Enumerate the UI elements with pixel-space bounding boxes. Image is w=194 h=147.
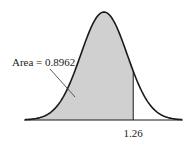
- area-label: Area = 0.8962: [12, 56, 75, 68]
- z-value-label: 1.26: [123, 127, 143, 139]
- normal-curve-chart: Area = 0.8962 1.26: [0, 0, 194, 147]
